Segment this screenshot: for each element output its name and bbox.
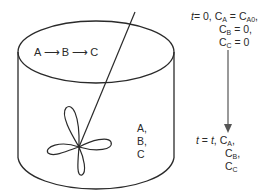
final-condition-line-2: CB, [225,147,240,159]
species-b: B [62,46,69,58]
reaction-arrow-2: ⟶ [72,46,87,58]
final-condition-line-1: t = t, CA, [196,134,235,146]
contents-label-a: A, [137,122,147,134]
final-condition-line-3: CC [225,160,238,172]
species-c: C [90,46,98,58]
contents-label-c: C [137,148,145,160]
reaction-scheme: A ⟶ B ⟶ C [34,46,98,58]
initial-condition-line-1: t= 0, CA = CA0, [191,10,258,22]
reactor-bottom [18,158,174,189]
time-arrow-head [224,124,232,133]
contents-label-b: B, [137,135,147,147]
reaction-arrow-1: ⟶ [44,46,59,58]
stirrer-shaft [79,12,135,147]
initial-condition-line-3: CC = 0 [219,36,249,48]
impeller-icon [47,107,111,176]
initial-condition-line-2: CB = 0, [219,23,252,35]
species-a: A [34,46,41,58]
